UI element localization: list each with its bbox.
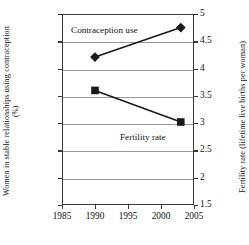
- x-axis-tick: [161, 205, 162, 209]
- right-axis-tick-label: 2: [200, 172, 240, 182]
- series-fertility-rate: [91, 87, 184, 126]
- right-axis-tick-label: 5: [200, 8, 240, 18]
- left-axis-tick: [58, 14, 62, 15]
- right-axis-tick: [194, 14, 198, 15]
- right-axis-tick: [194, 178, 198, 179]
- right-axis-tick: [194, 41, 198, 42]
- right-axis-tick-label: 3: [200, 117, 240, 127]
- left-axis-tick: [58, 123, 62, 124]
- right-axis-tick-label: 3.5: [200, 90, 240, 100]
- left-axis-title: Women in stable relationships using cont…: [2, 6, 11, 216]
- right-axis-tick: [194, 96, 198, 97]
- right-axis-tick: [194, 123, 198, 124]
- left-axis-unit-label: (%): [11, 6, 20, 216]
- data-point-marker: [177, 118, 185, 126]
- series-layer: [62, 14, 194, 205]
- chart-figure: Women in stable relationships using cont…: [0, 0, 249, 245]
- data-point-marker: [176, 23, 186, 33]
- left-axis-tick: [58, 150, 62, 151]
- right-axis-tick: [194, 69, 198, 70]
- left-axis-tick: [58, 69, 62, 70]
- x-axis-tick: [194, 205, 195, 209]
- right-axis-tick-label: 4: [200, 63, 240, 73]
- x-axis-tick-label: 2005: [174, 211, 214, 221]
- right-axis-tick-label: 1.5: [200, 199, 240, 209]
- right-axis-tick-label: 4.5: [200, 35, 240, 45]
- left-axis-tick: [58, 96, 62, 97]
- x-axis-tick: [128, 205, 129, 209]
- right-axis-tick-label: 2.5: [200, 144, 240, 154]
- left-axis-tick: [58, 41, 62, 42]
- series-label-fertility-rate: Fertility rate: [120, 132, 166, 142]
- data-point-marker: [90, 52, 100, 62]
- left-axis-tick: [58, 178, 62, 179]
- data-point-marker: [91, 87, 99, 95]
- x-axis-tick: [95, 205, 96, 209]
- series-label-contraception-use: Contraception use: [71, 25, 138, 35]
- x-axis-tick: [62, 205, 63, 209]
- right-axis-tick: [194, 150, 198, 151]
